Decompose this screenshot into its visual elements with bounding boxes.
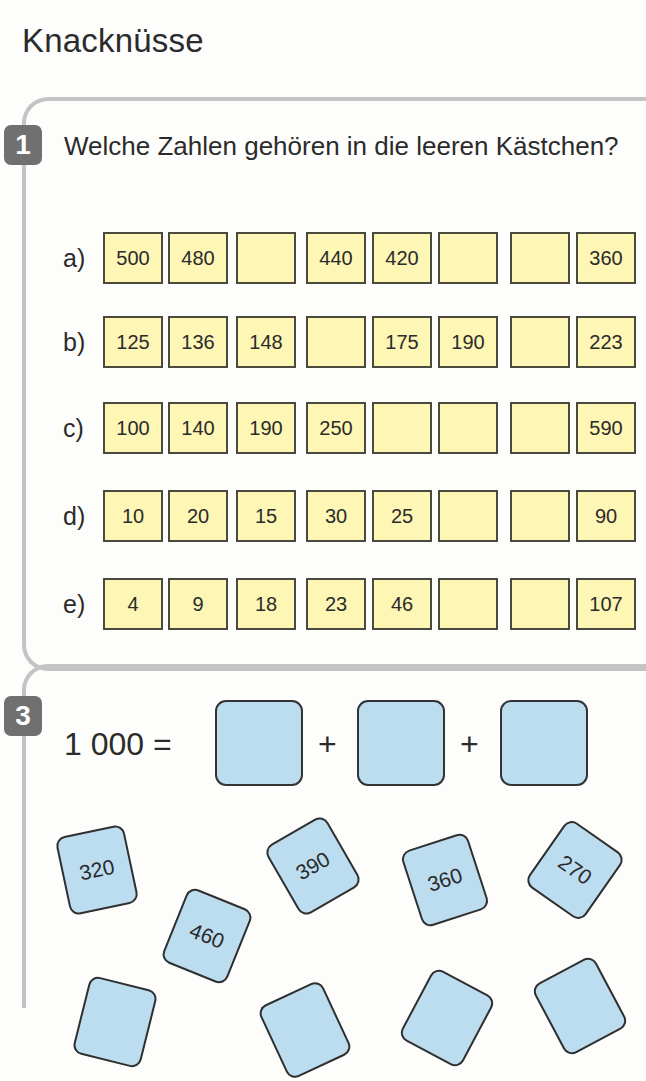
number-cell: 10 (103, 490, 163, 542)
number-cell: 190 (438, 316, 498, 368)
number-cell: 100 (103, 402, 163, 454)
number-cell: 4 (103, 578, 163, 630)
empty-answer-cell[interactable] (510, 578, 570, 630)
empty-answer-cell[interactable] (236, 232, 296, 284)
number-cell: 125 (103, 316, 163, 368)
empty-answer-cell[interactable] (510, 490, 570, 542)
row-label: c) (63, 402, 84, 454)
number-cell: 15 (236, 490, 296, 542)
number-cell: 140 (168, 402, 228, 454)
number-cell: 250 (306, 402, 366, 454)
number-cell: 175 (372, 316, 432, 368)
empty-answer-cell[interactable] (438, 490, 498, 542)
number-cell: 30 (306, 490, 366, 542)
number-cell: 420 (372, 232, 432, 284)
plus-sign-2: + (460, 720, 479, 768)
number-cell: 148 (236, 316, 296, 368)
number-cell: 23 (306, 578, 366, 630)
exercise-1-question: Welche Zahlen gehören in die leeren Käst… (64, 126, 624, 166)
answer-box-3[interactable] (500, 700, 588, 786)
number-cell: 18 (236, 578, 296, 630)
number-cell: 500 (103, 232, 163, 284)
exercise-3-badge: 3 (4, 696, 42, 736)
number-cell: 46 (372, 578, 432, 630)
empty-answer-cell[interactable] (306, 316, 366, 368)
page-title: Knacknüsse (22, 22, 204, 60)
empty-answer-cell[interactable] (510, 232, 570, 284)
number-cell: 190 (236, 402, 296, 454)
empty-answer-cell[interactable] (438, 578, 498, 630)
number-cell: 90 (576, 490, 636, 542)
number-cell: 360 (576, 232, 636, 284)
number-cell: 20 (168, 490, 228, 542)
number-cell: 9 (168, 578, 228, 630)
row-label: e) (63, 578, 85, 630)
row-label: b) (63, 316, 85, 368)
exercise-1-badge: 1 (4, 125, 42, 165)
empty-answer-cell[interactable] (510, 402, 570, 454)
number-cell: 107 (576, 578, 636, 630)
plus-sign-1: + (318, 720, 337, 768)
equation-lhs: 1 000 = (64, 720, 172, 768)
number-cell: 136 (168, 316, 228, 368)
answer-box-2[interactable] (357, 700, 445, 786)
number-cell: 223 (576, 316, 636, 368)
empty-answer-cell[interactable] (438, 232, 498, 284)
empty-answer-cell[interactable] (510, 316, 570, 368)
row-label: d) (63, 490, 85, 542)
number-cell: 25 (372, 490, 432, 542)
answer-box-1[interactable] (215, 700, 303, 786)
number-cell: 590 (576, 402, 636, 454)
empty-answer-cell[interactable] (438, 402, 498, 454)
row-label: a) (63, 232, 85, 284)
empty-answer-cell[interactable] (372, 402, 432, 454)
number-cell: 440 (306, 232, 366, 284)
number-cell: 480 (168, 232, 228, 284)
